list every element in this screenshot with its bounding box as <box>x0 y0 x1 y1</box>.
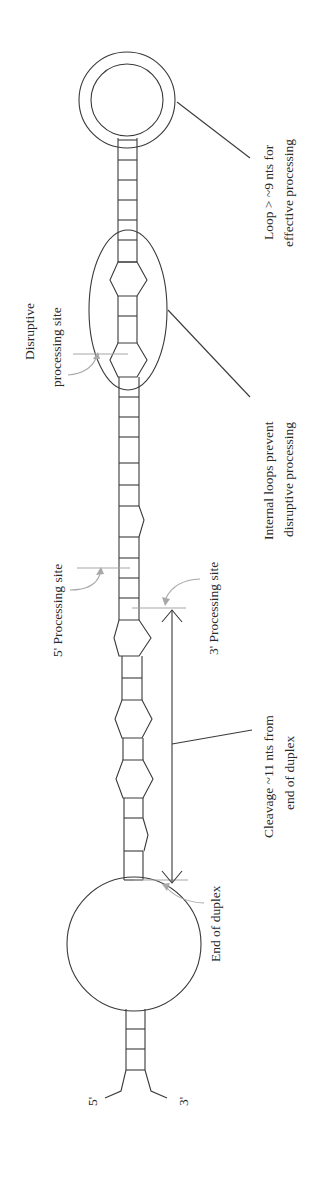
three-prime-site-marker <box>132 579 200 608</box>
basal-stem <box>105 1009 167 1098</box>
loop-pointer-line <box>177 102 250 158</box>
end-of-duplex-label: End of duplex <box>208 885 223 962</box>
disruptive-label-line2: processing site <box>49 307 64 387</box>
cleavage-label-line1: Cleavage ~11 nts from <box>261 715 276 838</box>
five-prime-end-label: 5' <box>85 1097 100 1106</box>
hairpin-diagram: Loop > ~9 nts for effective processing I… <box>0 0 319 1186</box>
disruptive-label-line1: Disruptive <box>22 303 37 360</box>
three-prime-site-label: 3' Processing site <box>206 562 221 655</box>
disruptive-site-marker <box>68 352 128 375</box>
terminal-loop <box>79 52 175 148</box>
internal-loops-label-line1: Internal loops prevent <box>261 421 276 540</box>
loop-label-line1: Loop > ~9 nts for <box>261 144 276 240</box>
three-prime-end-label: 3' <box>176 1097 191 1106</box>
end-of-duplex-marker <box>134 880 204 903</box>
internal-loops-pointer-line <box>168 310 250 397</box>
five-prime-site-label: 5' Processing site <box>50 564 65 657</box>
internal-loops-ellipse <box>89 230 167 390</box>
cleavage-label-line2: end of duplex <box>282 736 297 810</box>
internal-loops <box>110 262 147 377</box>
lower-stem <box>114 620 153 880</box>
loop-label-line2: effective processing <box>281 139 296 247</box>
middle-stem <box>119 377 144 620</box>
upper-stem <box>118 138 137 262</box>
basal-loop <box>67 877 201 1011</box>
internal-loops-label-line2: disruptive processing <box>281 422 296 537</box>
